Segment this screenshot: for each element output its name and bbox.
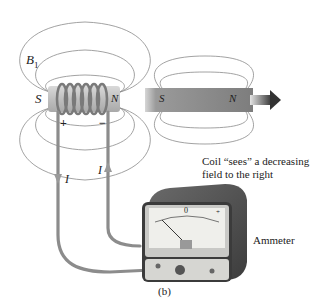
ammeter xyxy=(142,184,247,282)
induction-diagram xyxy=(0,0,315,302)
caption-line-1: Coil “sees” a decreasing xyxy=(202,155,309,167)
ammeter-label: Ammeter xyxy=(253,234,295,246)
motion-arrow xyxy=(250,90,281,110)
current-right-label: I xyxy=(98,163,102,178)
coil-south-label: S xyxy=(35,91,42,107)
current-left-label: I xyxy=(65,172,69,187)
coil-minus-label: − xyxy=(99,116,106,131)
meter-plus: + xyxy=(216,208,220,216)
coil-plus-label: + xyxy=(60,116,67,131)
field-label: B1 xyxy=(26,52,38,70)
magnet-north-label: N xyxy=(229,92,236,104)
coil-windings xyxy=(57,84,107,114)
caption-line-2: field to the right xyxy=(202,168,273,180)
coil-north-label: N xyxy=(111,92,118,104)
figure-label: (b) xyxy=(158,285,171,297)
current-arrows xyxy=(54,162,112,184)
magnet-south-label: S xyxy=(159,92,165,104)
meter-zero: 0 xyxy=(184,206,188,215)
